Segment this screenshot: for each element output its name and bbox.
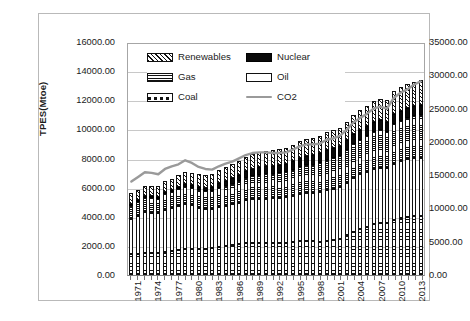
stacked-bar[interactable] [183, 172, 187, 275]
stacked-bar[interactable] [170, 179, 174, 275]
bar-segment-renew [277, 149, 281, 165]
stacked-bar[interactable] [277, 149, 281, 275]
bar-segment-coal [365, 227, 369, 275]
bar-segment-nuclear [378, 120, 382, 130]
stacked-bar[interactable] [351, 115, 355, 275]
x-tickmark [212, 276, 213, 280]
stacked-bar[interactable] [392, 91, 396, 275]
bar-segment-oil [331, 189, 335, 240]
stacked-bar[interactable] [129, 193, 133, 275]
bar-segment-gas [338, 156, 342, 187]
stacked-bar[interactable] [217, 170, 221, 275]
bar-segment-oil [197, 208, 201, 249]
bar-segment-nuclear [304, 156, 308, 165]
legend-row-2: Gas Oil [147, 67, 345, 87]
stacked-bar[interactable] [331, 130, 335, 275]
bar-segment-renew [372, 101, 376, 122]
stacked-bar[interactable] [136, 190, 140, 275]
x-tickmark [334, 276, 335, 280]
x-tickmark [340, 276, 341, 280]
stacked-bar[interactable] [318, 136, 322, 275]
stacked-bar[interactable] [250, 154, 254, 275]
bar-segment-renew [183, 172, 187, 184]
bar-segment-renew [156, 186, 160, 197]
stacked-bar[interactable] [345, 122, 349, 275]
bar-segment-gas [210, 191, 214, 209]
bar-slot [397, 43, 404, 275]
stacked-bar[interactable] [237, 161, 241, 275]
bar-segment-renew [129, 193, 133, 203]
bar-segment-nuclear [271, 166, 275, 174]
bar-segment-oil [244, 200, 248, 243]
stacked-bar[interactable] [338, 128, 342, 275]
legend-item-renewables: Renewables [147, 52, 246, 62]
bar-segment-gas [298, 167, 302, 194]
stacked-bar[interactable] [385, 100, 389, 275]
bar-segment-oil [170, 208, 174, 251]
stacked-bar[interactable] [230, 164, 234, 275]
bar-segment-oil [399, 161, 403, 218]
stacked-bar[interactable] [176, 175, 180, 275]
bar-segment-renew [345, 122, 349, 141]
stacked-bar[interactable] [304, 139, 308, 275]
x-tickmark [191, 276, 192, 280]
stacked-bar[interactable] [325, 132, 329, 275]
stacked-bar[interactable] [271, 150, 275, 275]
bar-segment-nuclear [412, 106, 416, 115]
bar-segment-oil [203, 209, 207, 249]
bar-segment-oil [318, 192, 322, 242]
x-tickmark [137, 276, 138, 280]
stacked-bar[interactable] [210, 174, 214, 275]
bar-segment-coal [230, 245, 234, 275]
bar-segment-renew [412, 82, 416, 107]
stacked-bar[interactable] [365, 106, 369, 275]
bar-segment-nuclear [419, 105, 423, 115]
stacked-bar[interactable] [311, 138, 315, 275]
bar-slot [370, 43, 377, 275]
y-tick-right: 35000.00 [429, 38, 468, 47]
stacked-bar[interactable] [143, 186, 147, 276]
stacked-bar[interactable] [358, 110, 362, 275]
bar-segment-coal [318, 242, 322, 275]
stacked-bar[interactable] [197, 174, 201, 275]
bar-segment-oil [271, 198, 275, 243]
bar-segment-oil [210, 209, 214, 248]
stacked-bar[interactable] [378, 99, 382, 275]
x-tickmark [374, 276, 375, 280]
stacked-bar[interactable] [419, 80, 423, 275]
stacked-bar[interactable] [190, 173, 194, 275]
stacked-bar[interactable] [156, 186, 160, 275]
gas-swatch-icon [147, 73, 173, 82]
stacked-bar[interactable] [284, 148, 288, 275]
stacked-bar[interactable] [244, 157, 248, 275]
stacked-bar[interactable] [149, 186, 153, 275]
stacked-bar[interactable] [405, 84, 409, 275]
x-tickmark [246, 276, 247, 280]
stacked-bar[interactable] [399, 87, 403, 275]
x-tickmark [259, 276, 260, 280]
stacked-bar[interactable] [412, 82, 416, 275]
bar-segment-coal [284, 243, 288, 275]
stacked-bar[interactable] [203, 175, 207, 275]
bar-segment-coal [271, 243, 275, 275]
bar-segment-oil [351, 178, 355, 232]
stacked-bar[interactable] [291, 145, 295, 275]
bar-segment-coal [405, 217, 409, 275]
bar-segment-renew [271, 150, 275, 165]
bar-segment-oil [298, 194, 302, 241]
stacked-bar[interactable] [264, 151, 268, 275]
bar-segment-gas [284, 172, 288, 197]
stacked-bar[interactable] [224, 167, 228, 275]
bar-segment-coal [399, 218, 403, 275]
stacked-bar[interactable] [257, 152, 261, 275]
bar-segment-coal [351, 232, 355, 275]
bar-segment-nuclear [277, 165, 281, 173]
bar-segment-coal [143, 253, 147, 275]
stacked-bar[interactable] [163, 181, 167, 275]
legend-label-gas: Gas [178, 72, 196, 82]
bar-segment-coal [385, 223, 389, 275]
stacked-bar[interactable] [298, 141, 302, 275]
x-tick-label: 2004 [357, 281, 366, 301]
bar-segment-renew [257, 152, 261, 167]
stacked-bar[interactable] [372, 101, 376, 275]
